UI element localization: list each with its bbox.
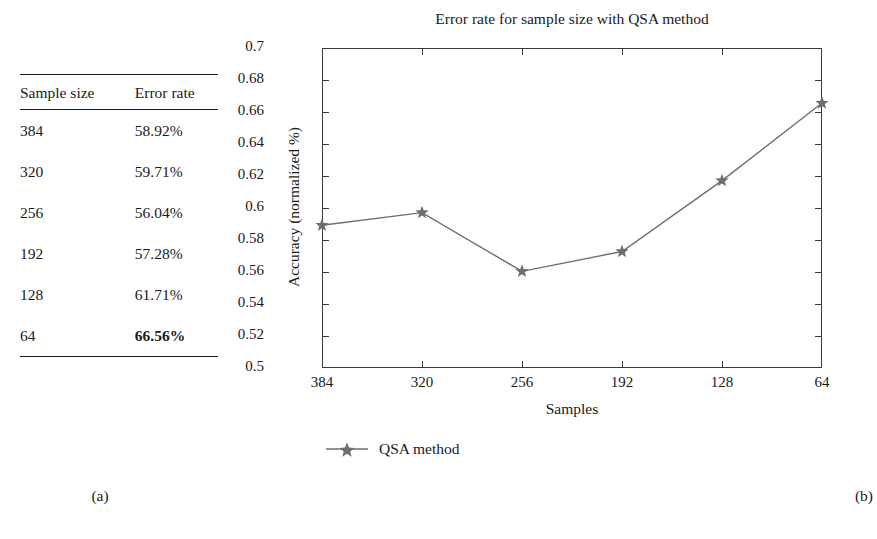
- y-tick-label: 0.6: [204, 199, 264, 214]
- legend-line-star-icon: [325, 441, 369, 457]
- table-header-row: Sample size Error rate: [20, 75, 218, 110]
- cell-sample-size: 128: [20, 274, 117, 315]
- x-tick-label: 192: [582, 374, 662, 391]
- cell-error-rate: 57.28%: [117, 233, 218, 274]
- legend-label-qsa-method: QSA method: [379, 440, 460, 458]
- y-axis-title: Accuracy (normalized %): [285, 82, 303, 332]
- x-tick-label: 256: [482, 374, 562, 391]
- sample-size-error-rate-table: Sample size Error rate 38458.92%32059.71…: [20, 74, 218, 357]
- series-markers-qsa-method: [315, 96, 828, 277]
- y-tick-label: 0.56: [204, 263, 264, 278]
- table-body: 38458.92%32059.71%25656.04%19257.28%1286…: [20, 110, 218, 357]
- cell-error-rate: 59.71%: [117, 151, 218, 192]
- chart-legend: QSA method: [325, 440, 460, 458]
- table-row: 25656.04%: [20, 192, 218, 233]
- cell-sample-size: 256: [20, 192, 117, 233]
- table-row: 6466.56%: [20, 315, 218, 357]
- x-tick-label: 384: [282, 374, 362, 391]
- cell-error-rate: 58.92%: [117, 110, 218, 152]
- table-header: Sample size Error rate: [20, 75, 218, 110]
- column-header-error-rate: Error rate: [117, 75, 218, 110]
- y-tick-label: 0.58: [204, 231, 264, 246]
- y-tick-label: 0.64: [204, 135, 264, 150]
- chart-plot-area: [322, 48, 822, 368]
- table-row: 38458.92%: [20, 110, 218, 152]
- cell-error-rate: 56.04%: [117, 192, 218, 233]
- data-point-marker: [415, 206, 428, 219]
- cell-sample-size: 384: [20, 110, 117, 152]
- cell-sample-size: 320: [20, 151, 117, 192]
- chart-title: Error rate for sample size with QSA meth…: [322, 10, 822, 28]
- y-tick-label: 0.54: [204, 295, 264, 310]
- cell-error-rate: 66.56%: [117, 315, 218, 357]
- cell-error-rate: 61.71%: [117, 274, 218, 315]
- data-point-marker: [515, 264, 528, 277]
- y-tick-label: 0.62: [204, 167, 264, 182]
- subfigure-caption-b: (b): [834, 487, 877, 505]
- x-tick-label: 320: [382, 374, 462, 391]
- data-point-marker: [315, 218, 328, 231]
- subfigure-caption-a: (a): [70, 487, 130, 505]
- y-tick-label: 0.52: [204, 327, 264, 342]
- y-tick-label: 0.68: [204, 71, 264, 86]
- y-tick-label: 0.66: [204, 103, 264, 118]
- data-point-marker: [615, 245, 628, 258]
- table-row: 19257.28%: [20, 233, 218, 274]
- x-tick-label: 128: [682, 374, 762, 391]
- panel-b-chart-figure: Error rate for sample size with QSA meth…: [250, 0, 842, 539]
- y-tick-label: 0.7: [204, 39, 264, 54]
- cell-sample-size: 64: [20, 315, 117, 357]
- column-header-sample-size: Sample size: [20, 75, 117, 110]
- cell-sample-size: 192: [20, 233, 117, 274]
- y-tick-label: 0.5: [204, 359, 264, 374]
- table-row: 12861.71%: [20, 274, 218, 315]
- series-line-qsa-method: [322, 103, 822, 271]
- table-row: 32059.71%: [20, 151, 218, 192]
- x-tick-label: 64: [782, 374, 862, 391]
- x-axis-title: Samples: [322, 400, 822, 418]
